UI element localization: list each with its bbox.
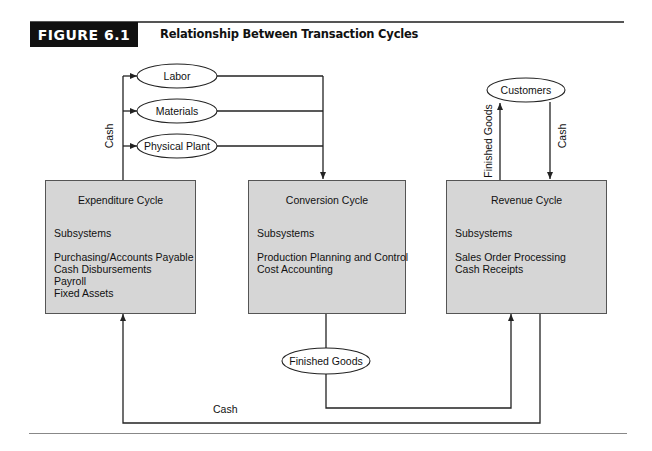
subsystems-heading: Subsystems bbox=[455, 227, 606, 239]
finished-goods-label: Finished Goods bbox=[282, 348, 370, 374]
cycle-title: Conversion Cycle bbox=[249, 194, 405, 206]
input-cash-label: Cash bbox=[103, 116, 117, 156]
customers-label: Customers bbox=[487, 78, 565, 102]
subsystem-item: Sales Order Processing bbox=[455, 251, 606, 263]
subsystems-list: Production Planning and Control Cost Acc… bbox=[257, 251, 405, 275]
labor-label: Labor bbox=[137, 64, 217, 88]
expenditure-cycle-box: Expenditure Cycle Subsystems Purchasing/… bbox=[45, 180, 196, 314]
conversion-cycle-box: Conversion Cycle Subsystems Production P… bbox=[248, 180, 406, 314]
subsystem-item: Purchasing/Accounts Payable bbox=[54, 251, 195, 263]
subsystem-item: Payroll bbox=[54, 275, 195, 287]
customers-cash-label: Cash bbox=[556, 116, 570, 156]
subsystem-item: Production Planning and Control bbox=[257, 251, 405, 263]
subsystems-heading: Subsystems bbox=[257, 227, 405, 239]
subsystem-item: Cost Accounting bbox=[257, 263, 405, 275]
materials-label: Materials bbox=[137, 99, 217, 123]
subsystems-list: Purchasing/Accounts Payable Cash Disburs… bbox=[54, 251, 195, 299]
customers-finished-goods-label: Finished Goods bbox=[482, 101, 496, 181]
cycle-title: Revenue Cycle bbox=[447, 194, 606, 206]
subsystems-list: Sales Order Processing Cash Receipts bbox=[455, 251, 606, 275]
cycle-title: Expenditure Cycle bbox=[46, 194, 195, 206]
physical-plant-label: Physical Plant bbox=[137, 134, 217, 158]
revenue-cycle-box: Revenue Cycle Subsystems Sales Order Pro… bbox=[446, 180, 607, 314]
bottom-rule bbox=[29, 433, 627, 434]
subsystems-heading: Subsystems bbox=[54, 227, 195, 239]
subsystem-item: Fixed Assets bbox=[54, 287, 195, 299]
bottom-cash-label: Cash bbox=[213, 403, 238, 415]
subsystem-item: Cash Receipts bbox=[455, 263, 606, 275]
subsystem-item: Cash Disbursements bbox=[54, 263, 195, 275]
